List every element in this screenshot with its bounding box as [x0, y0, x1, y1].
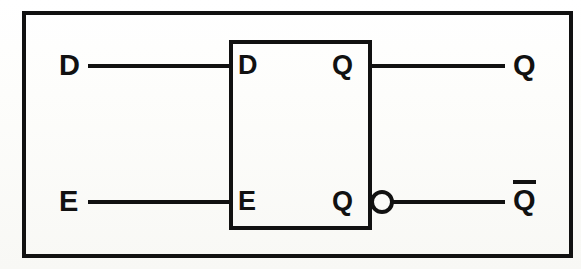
pin-label-q-bar: Q: [332, 188, 353, 215]
wire-q-output: [371, 64, 505, 68]
wire-e-input: [88, 200, 229, 204]
external-input-label-e: E: [59, 187, 78, 216]
pin-label-q: Q: [332, 52, 353, 79]
external-output-label-qbar: Q: [513, 186, 536, 215]
pin-label-d: D: [238, 52, 258, 79]
external-output-label-q: Q: [513, 51, 536, 80]
wire-d-input: [88, 64, 229, 68]
figure-canvas: D E D E Q Q Q Q: [0, 0, 581, 269]
pin-label-e: E: [238, 188, 256, 215]
inversion-bubble-icon: [370, 190, 394, 214]
wire-qbar-output: [393, 200, 505, 204]
external-input-label-d: D: [59, 51, 80, 80]
